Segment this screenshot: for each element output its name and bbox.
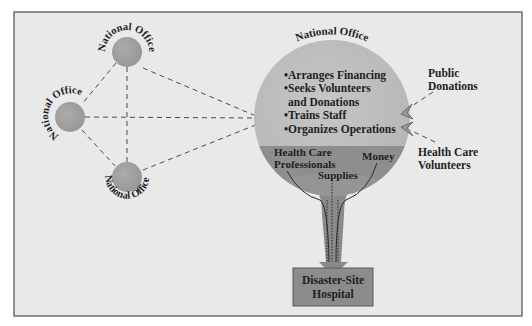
function-item: •Seeks Volunteers — [284, 82, 396, 95]
regional-office-circle-top — [112, 37, 142, 67]
central-office-functions: •Arranges Financing •Seeks Volunteers an… — [284, 69, 396, 136]
function-item: •Arranges Financing — [284, 69, 396, 82]
resource-professionals: Health Care Professionals — [274, 146, 336, 170]
resource-money: Money — [362, 150, 394, 162]
diagram-canvas: National Office National Office National… — [0, 0, 532, 326]
regional-office-circle-left — [55, 102, 85, 132]
resource-supplies: Supplies — [318, 169, 358, 181]
function-item: and Donations — [284, 96, 396, 109]
function-item: •Organizes Operations — [284, 123, 396, 136]
function-item: •Trains Staff — [284, 109, 396, 122]
hospital-label: Disaster-Site Hospital — [293, 273, 373, 301]
health-care-volunteers-label: Health Care Volunteers — [418, 146, 478, 172]
public-donations-label: Public Donations — [428, 67, 478, 93]
